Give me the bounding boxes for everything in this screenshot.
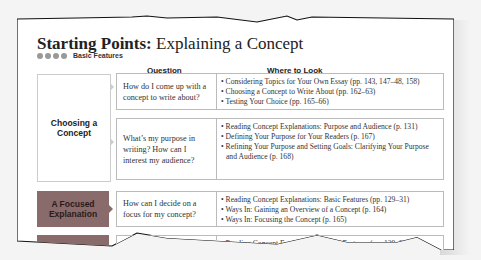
reference-item: • Reading Concept Explanations: Basic Fe…: [221, 195, 439, 205]
page-title: Starting Points: Explaining a Concept: [37, 34, 303, 54]
where-cell: • Reading Concept Explanations: Purpose …: [216, 118, 444, 180]
question-cell: How do I come up with a concept to write…: [116, 73, 217, 110]
arrow-icon: [110, 83, 114, 91]
dot-icon: [53, 53, 59, 59]
reference-item: • Ways In: Gaining an Overview of a Conc…: [221, 205, 439, 215]
category-focused-explanation: A Focused Explanation: [37, 191, 109, 227]
question-cell: What’s my purpose in writing? How can I …: [116, 118, 217, 180]
reference-item: • Testing Your Choice (pp. 165–66): [221, 97, 439, 107]
dot-icon: [37, 53, 43, 59]
reference-item: • Refining Your Purpose and Setting Goal…: [221, 142, 439, 162]
arrow-icon: [110, 138, 114, 146]
reference-item: • Defining Your Purpose for Your Readers…: [221, 132, 439, 142]
where-cell: • Reading Concept Explanations: Basic Fe…: [216, 191, 444, 227]
reference-item: • Reading Concept Explanations: Purpose …: [221, 122, 439, 132]
dot-icon: [45, 53, 51, 59]
basic-features-label: Basic Features: [37, 52, 123, 59]
reference-item: • Ways In: Focusing the Concept (p. 165): [221, 215, 439, 225]
dot-icon: [61, 53, 67, 59]
question-cell: How can I decide on a focus for my conce…: [116, 191, 217, 227]
where-cell: • Considering Topics for Your Own Essay …: [216, 73, 444, 110]
torn-page: Starting Points: Explaining a Concept Ba…: [17, 10, 454, 250]
category-choosing-concept: Choosing a Concept: [37, 74, 111, 182]
reference-item: • Choosing a Concept to Write About (pp.…: [221, 87, 439, 97]
reference-item: • Considering Topics for Your Own Essay …: [221, 77, 439, 87]
arrow-icon: [109, 205, 113, 213]
